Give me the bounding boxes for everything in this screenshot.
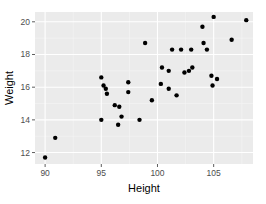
y-tick-label: 14	[21, 115, 31, 125]
y-tick-label: 16	[21, 82, 31, 92]
data-point	[104, 87, 108, 91]
data-point	[170, 47, 174, 51]
x-axis-title: Height	[128, 182, 160, 194]
data-point	[229, 38, 233, 42]
data-point	[119, 114, 123, 118]
data-point	[209, 74, 213, 78]
data-point	[117, 105, 121, 109]
y-tick-label: 18	[21, 49, 31, 59]
data-point	[244, 18, 248, 22]
data-point	[201, 41, 205, 45]
data-point	[160, 65, 164, 69]
x-tick-label: 95	[97, 168, 107, 178]
data-point	[187, 69, 191, 73]
data-point	[150, 98, 154, 102]
data-point	[53, 136, 57, 140]
data-point	[182, 70, 186, 74]
scatter-chart: 9095100105 1214161820 Height Weight	[0, 0, 266, 204]
data-point	[179, 47, 183, 51]
data-point	[113, 103, 117, 107]
data-point	[105, 92, 109, 96]
y-axis-ticks: 1214161820	[21, 17, 35, 158]
data-point	[205, 47, 209, 51]
data-point	[43, 155, 47, 159]
data-point	[189, 47, 193, 51]
data-point	[159, 82, 163, 86]
data-point	[116, 123, 120, 127]
x-axis-ticks: 9095100105	[40, 164, 221, 178]
x-tick-label: 105	[207, 168, 221, 178]
data-point	[143, 41, 147, 45]
y-tick-label: 20	[21, 17, 31, 27]
y-tick-label: 12	[21, 148, 31, 158]
data-point	[137, 118, 141, 122]
data-point	[210, 83, 214, 87]
data-point	[211, 15, 215, 19]
data-point	[126, 80, 130, 84]
data-point	[190, 65, 194, 69]
data-point	[99, 75, 103, 79]
x-tick-label: 90	[40, 168, 50, 178]
data-point	[167, 87, 171, 91]
data-point	[215, 77, 219, 81]
x-tick-label: 100	[150, 168, 164, 178]
data-point	[126, 90, 130, 94]
data-point	[167, 69, 171, 73]
plot-panel	[35, 12, 253, 164]
data-point	[174, 93, 178, 97]
y-axis-title: Weight	[3, 71, 15, 105]
data-point	[200, 25, 204, 29]
data-point	[99, 118, 103, 122]
